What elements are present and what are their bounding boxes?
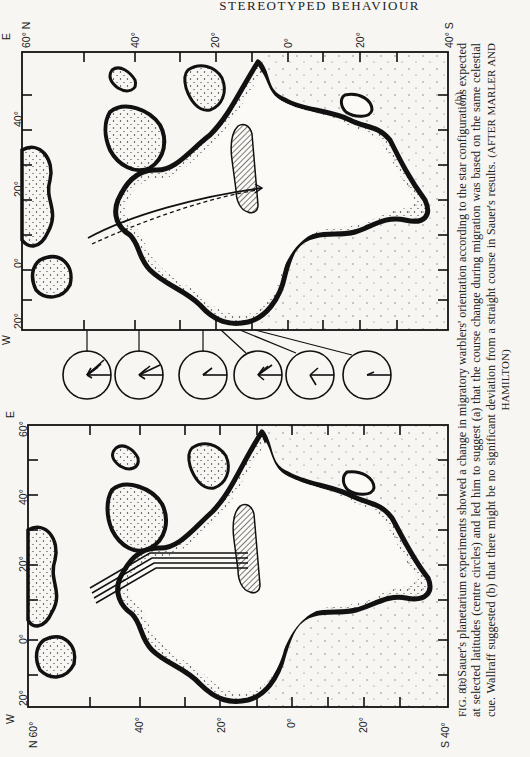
figure-caption: FIG. 81: Sauer's planetarium experiments…: [455, 37, 513, 757]
map-panel-b: 60° N 40° 20° 0° 20° 40° S 20° 0° 20° 40…: [0, 22, 465, 345]
svg-text:W: W: [0, 335, 12, 345]
svg-text:40°: 40°: [12, 111, 24, 127]
svg-text:S 40°: S 40°: [439, 722, 451, 748]
svg-text:0°: 0°: [282, 38, 294, 48]
svg-text:40°: 40°: [129, 32, 141, 48]
svg-text:20°: 20°: [357, 717, 369, 733]
svg-text:E: E: [4, 411, 16, 418]
svg-text:40°: 40°: [17, 489, 29, 505]
svg-text:40°: 40°: [133, 717, 145, 733]
svg-text:20°: 20°: [209, 32, 221, 48]
svg-text:20°: 20°: [215, 717, 227, 733]
svg-text:60°: 60°: [17, 421, 29, 437]
svg-text:0°: 0°: [12, 258, 24, 268]
map-panel-a: N 60° 40° 20° 0° 20° S 40° 20° 0° 20° 40…: [4, 411, 468, 748]
svg-text:20°: 20°: [17, 556, 29, 572]
figure-number: FIG. 81:: [456, 680, 468, 717]
orientation-circles: [63, 330, 391, 399]
svg-text:40° S: 40° S: [443, 22, 455, 48]
svg-text:W: W: [4, 714, 16, 724]
svg-text:0°: 0°: [17, 634, 29, 644]
svg-text:0°: 0°: [285, 718, 297, 728]
svg-text:20°: 20°: [17, 690, 29, 706]
figure-maps: 60° N 40° 20° 0° 20° 40° S 20° 0° 20° 40…: [0, 0, 530, 757]
lat-label: 60° N: [20, 22, 32, 48]
svg-text:E: E: [0, 33, 12, 40]
svg-text:N 60°: N 60°: [27, 722, 39, 748]
svg-text:20°: 20°: [12, 313, 24, 329]
svg-text:20°: 20°: [12, 181, 24, 197]
svg-text:20°: 20°: [354, 32, 366, 48]
